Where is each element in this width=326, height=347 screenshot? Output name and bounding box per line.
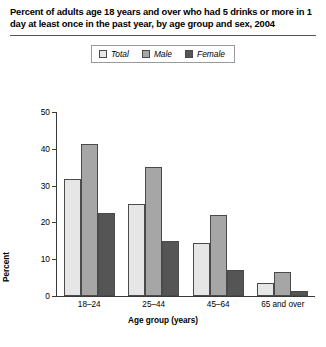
legend-item-male[interactable]: Male xyxy=(142,49,172,59)
y-tick-mark xyxy=(52,222,56,223)
bar-male[interactable] xyxy=(145,167,162,296)
legend-label-total: Total xyxy=(111,49,129,59)
title-divider xyxy=(10,35,316,36)
legend-swatch-total xyxy=(99,50,107,58)
bar-female[interactable] xyxy=(291,291,308,296)
legend-container: Total Male Female xyxy=(0,45,326,63)
y-axis-label: Percent xyxy=(2,252,11,282)
bar-series-container xyxy=(57,112,315,296)
y-axis-ticks: 50403020100 xyxy=(24,104,50,347)
bar-male[interactable] xyxy=(274,272,291,296)
bar-female[interactable] xyxy=(227,270,244,296)
chart-plot-area: Percent 50403020100 Age group (years) 18… xyxy=(0,104,326,347)
y-tick-mark xyxy=(52,259,56,260)
x-tick-label: 18–24 xyxy=(57,300,122,309)
bar-group xyxy=(186,112,251,296)
y-tick-label: 40 xyxy=(28,144,50,154)
legend-item-total[interactable]: Total xyxy=(99,49,129,59)
bar-total[interactable] xyxy=(128,204,145,296)
y-tick-label: 0 xyxy=(28,291,50,301)
title-block: Percent of adults age 18 years and over … xyxy=(0,0,326,36)
bar-group xyxy=(57,112,122,296)
bar-group xyxy=(122,112,187,296)
x-tick-label: 65 and over xyxy=(251,300,316,309)
x-tick-label: 45–64 xyxy=(186,300,251,309)
bar-total[interactable] xyxy=(257,283,274,296)
legend-label-male: Male xyxy=(154,49,172,59)
x-axis-line xyxy=(56,296,315,297)
legend-label-female: Female xyxy=(197,49,225,59)
y-tick-label: 30 xyxy=(28,181,50,191)
legend-swatch-female xyxy=(185,50,193,58)
bar-male[interactable] xyxy=(81,144,98,296)
bar-total[interactable] xyxy=(64,179,81,296)
bar-female[interactable] xyxy=(162,241,179,296)
y-tick-mark xyxy=(52,149,56,150)
y-tick-label: 10 xyxy=(28,254,50,264)
y-tick-mark xyxy=(52,186,56,187)
y-tick-mark xyxy=(52,296,56,297)
bar-female[interactable] xyxy=(98,213,115,296)
bar-group xyxy=(251,112,316,296)
chart-legend: Total Male Female xyxy=(91,45,235,63)
x-tick-label: 25–44 xyxy=(122,300,187,309)
x-axis-label: Age group (years) xyxy=(0,316,326,325)
legend-swatch-male xyxy=(142,50,150,58)
y-tick-mark xyxy=(52,112,56,113)
y-tick-label: 50 xyxy=(28,107,50,117)
bar-male[interactable] xyxy=(210,215,227,296)
y-tick-label: 20 xyxy=(28,217,50,227)
bar-total[interactable] xyxy=(193,243,210,296)
legend-item-female[interactable]: Female xyxy=(185,49,225,59)
page-title: Percent of adults age 18 years and over … xyxy=(10,6,316,30)
